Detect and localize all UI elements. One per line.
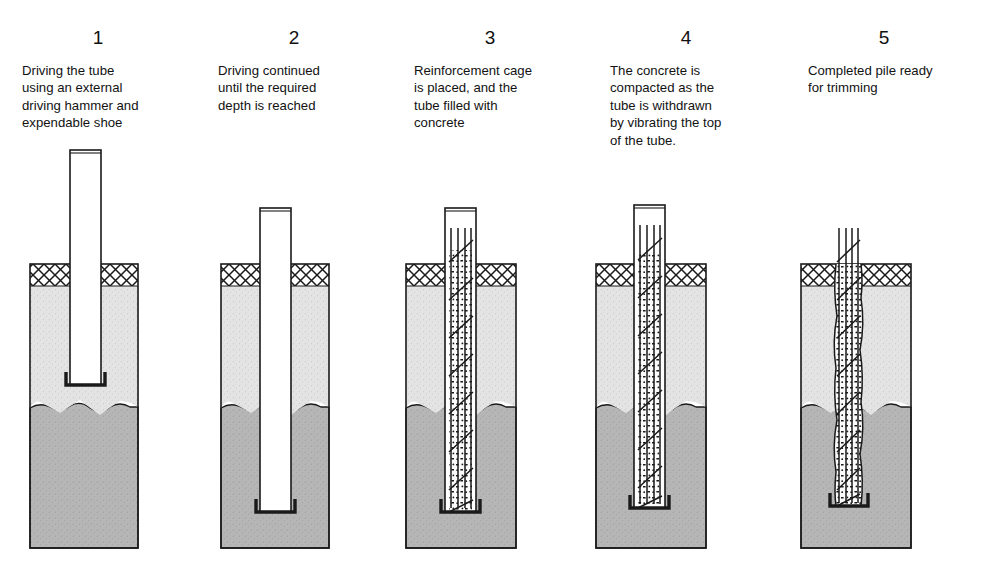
caption-line: Completed pile ready xyxy=(808,62,982,79)
expendable-shoe xyxy=(66,372,105,385)
reinforcement-cage xyxy=(837,228,860,506)
rebar-helix xyxy=(449,240,473,512)
driving-tube xyxy=(445,208,476,512)
lower-soil-stratum xyxy=(406,403,516,548)
step-caption-4: The concrete is compacted as the tube is… xyxy=(610,62,784,149)
soil-block-outline xyxy=(801,264,911,548)
step-number-1: 1 xyxy=(0,28,196,47)
caption-line: using an external xyxy=(22,79,192,96)
caption-line: Driving continued xyxy=(218,62,388,79)
panel-step-5: 5 Completed pile ready for trimming xyxy=(786,0,982,570)
step-number-3: 3 xyxy=(392,28,588,47)
upper-soil-stratum xyxy=(221,264,329,415)
driving-tube xyxy=(260,208,291,512)
ground-surface-hatch-band xyxy=(596,264,706,286)
expendable-shoe xyxy=(630,495,669,508)
caption-line: until the required xyxy=(218,79,388,96)
panel-step-2: 2 Driving continued until the required d… xyxy=(196,0,392,570)
panel-step-1: 1 Driving the tube using an external dri… xyxy=(0,0,196,570)
reinforcement-cage xyxy=(638,225,662,508)
caption-line: depth is reached xyxy=(218,97,388,114)
ground-surface-hatch-band xyxy=(221,264,329,286)
caption-line: Reinforcement cage xyxy=(414,62,590,79)
ground-surface-hatch-band xyxy=(406,264,516,286)
rebar-helix xyxy=(837,240,860,506)
pile-shaft-outline xyxy=(834,264,863,506)
step-number-4: 4 xyxy=(588,28,784,47)
caption-line: expendable shoe xyxy=(22,114,192,131)
caption-line: tube is withdrawn xyxy=(610,97,784,114)
upper-soil-stratum xyxy=(596,264,706,415)
expendable-shoe xyxy=(256,499,295,512)
lower-soil-stratum xyxy=(221,403,329,548)
reinforcement-cage xyxy=(449,228,473,512)
step-caption-1: Driving the tube using an external drivi… xyxy=(22,62,192,132)
ground-surface-hatch-band xyxy=(801,264,911,286)
caption-line: The concrete is xyxy=(610,62,784,79)
soil-block-outline xyxy=(406,264,516,548)
step-caption-5: Completed pile ready for trimming xyxy=(808,62,982,97)
caption-line: by vibrating the top xyxy=(610,114,784,131)
lower-soil-stratum xyxy=(801,403,911,548)
caption-line: compacted as the xyxy=(610,79,784,96)
upper-soil-stratum xyxy=(406,264,516,415)
lower-soil-stratum xyxy=(596,403,706,548)
concrete-fill xyxy=(449,250,472,510)
expendable-shoe xyxy=(830,493,868,506)
driving-tube xyxy=(70,150,101,385)
pile-construction-figure: 1 Driving the tube using an external dri… xyxy=(0,0,982,570)
caption-line: is placed, and the xyxy=(414,79,590,96)
rebar-helix xyxy=(638,238,662,508)
concrete-fill xyxy=(638,252,661,506)
soil-block-outline xyxy=(30,264,138,548)
step-number-2: 2 xyxy=(196,28,392,47)
driving-tube xyxy=(634,205,665,508)
caption-line: driving hammer and xyxy=(22,97,192,114)
ground-surface-hatch-band xyxy=(30,264,138,286)
soil-block-outline xyxy=(221,264,329,548)
panel-step-3: 3 Reinforcement cage is placed, and the … xyxy=(392,0,588,570)
completed-pile-shaft xyxy=(826,260,872,510)
step-caption-2: Driving continued until the required dep… xyxy=(218,62,388,114)
step-caption-3: Reinforcement cage is placed, and the tu… xyxy=(414,62,590,132)
caption-line: for trimming xyxy=(808,79,982,96)
upper-soil-stratum xyxy=(801,264,911,415)
caption-line: Driving the tube xyxy=(22,62,192,79)
step-number-5: 5 xyxy=(786,28,982,47)
panel-step-4: 4 The concrete is compacted as the tube … xyxy=(588,0,784,570)
caption-line: tube filled with xyxy=(414,97,590,114)
expendable-shoe xyxy=(441,499,480,512)
caption-line: of the tube. xyxy=(610,132,784,149)
upper-soil-stratum xyxy=(30,264,138,415)
caption-line: concrete xyxy=(414,114,590,131)
lower-soil-stratum xyxy=(30,403,138,548)
soil-block-outline xyxy=(596,264,706,548)
